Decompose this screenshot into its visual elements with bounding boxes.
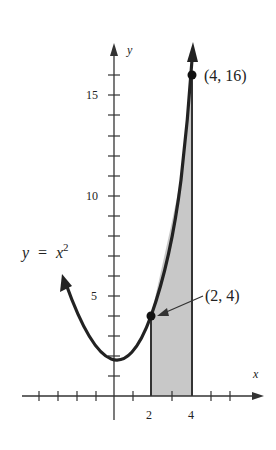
curve-left-arrow-icon [60,274,72,292]
y-axis-label: y [126,43,133,57]
point-label-4-16: (4, 16) [204,67,247,85]
y-tick-label-5: 5 [91,289,97,303]
point-2-4 [147,312,156,321]
y-tick-label-15: 15 [86,88,98,102]
x-tick-label-4: 4 [188,408,194,422]
point-label-2-4: (2, 4) [205,287,240,305]
y-tick-label-10: 10 [86,189,98,203]
parabola-figure: y x 2 4 5 10 15 (2, 4) (4, 16) y = x2 [0,0,276,450]
y-axis-arrow-icon [110,43,118,56]
function-label-exponent: 2 [63,241,69,253]
point-4-16 [188,71,197,80]
x-tick-label-2: 2 [146,408,152,422]
x-axis-arrow-icon [252,392,264,400]
function-label: y = x2 [20,241,69,262]
function-label-base: y = x [20,244,63,262]
curve-top-arrow-icon [187,42,198,62]
x-axis-label: x [252,367,259,381]
